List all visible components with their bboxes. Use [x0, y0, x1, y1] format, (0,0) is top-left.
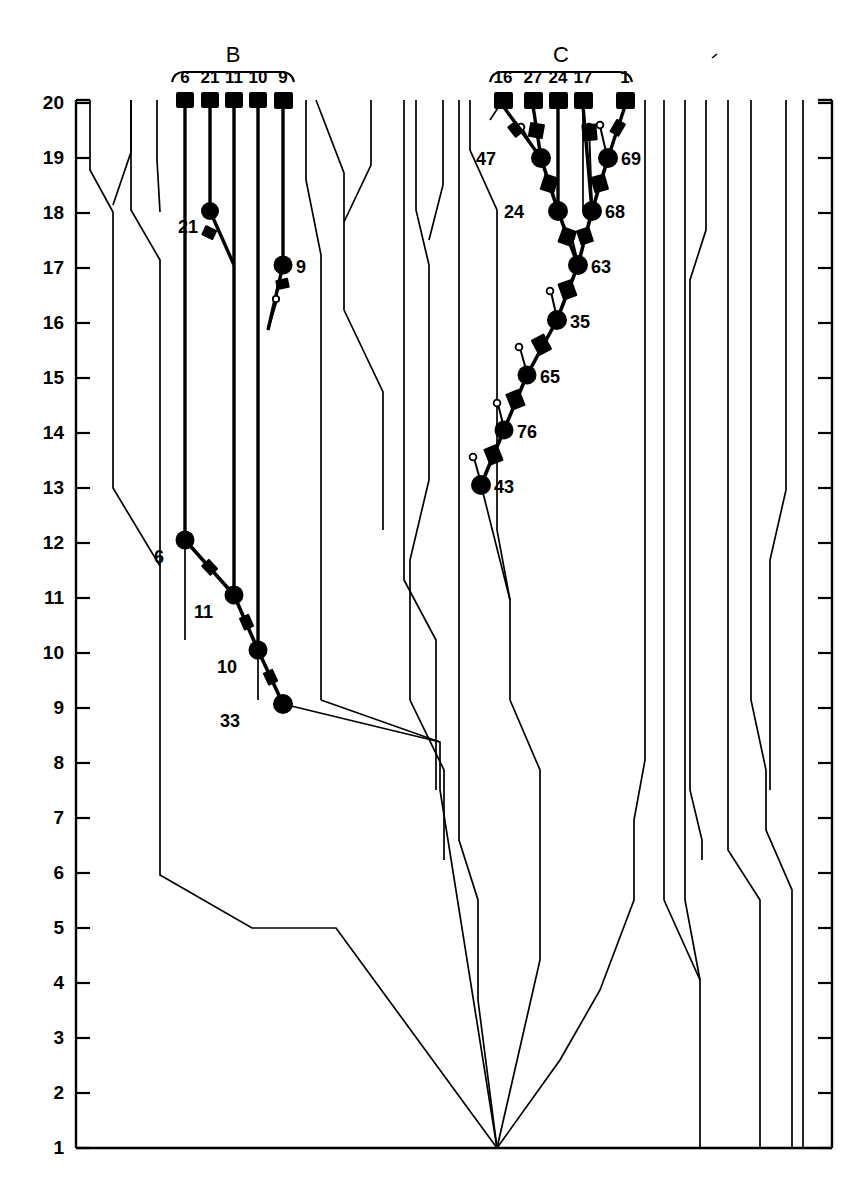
node-47 — [531, 148, 551, 168]
thin-lineage-24 — [728, 100, 760, 1148]
clade-C-node-label-47: 47 — [476, 150, 496, 168]
tip-square-6 — [176, 92, 194, 108]
thin-lineage-3 — [131, 100, 160, 566]
thin-lineage-23 — [690, 100, 706, 860]
axis-tick-label-5: 5 — [30, 918, 64, 937]
axis-tick-label-17: 17 — [30, 258, 64, 277]
stray-mark — [712, 54, 717, 58]
node-63 — [568, 255, 588, 275]
tip-square-10 — [249, 92, 267, 108]
node-24 — [548, 201, 568, 221]
clade-C-node-label-24: 24 — [504, 203, 524, 221]
node-35 — [547, 310, 567, 330]
clade-C-node-label-76: 76 — [517, 423, 537, 441]
tip-square-1 — [616, 92, 635, 109]
axis-tick-label-7: 7 — [30, 808, 64, 827]
axis-tick-label-12: 12 — [30, 533, 64, 552]
axis-tick-label-8: 8 — [30, 753, 64, 772]
group-label-B: B — [213, 44, 253, 66]
clade-B-node-label-10: 10 — [217, 658, 237, 676]
axis-tick-label-10: 10 — [30, 643, 64, 662]
thin-lineage-11 — [404, 310, 436, 790]
node-6 — [176, 531, 195, 550]
thin-lineage-15 — [459, 100, 497, 1148]
thin-lineage-14 — [410, 480, 444, 860]
node-21 — [201, 202, 219, 220]
thin-lineage-2 — [113, 100, 131, 205]
clade-C-node-label-35: 35 — [570, 313, 590, 331]
thin-lineage-1 — [90, 100, 497, 1148]
clade-B-node-label-33: 33 — [220, 712, 240, 730]
thin-lineage-6 — [321, 700, 497, 1148]
thin-lineage-19 — [497, 100, 645, 1148]
thin-lineage-12 — [416, 100, 429, 480]
background-lineages — [90, 100, 803, 1148]
group-label-C: C — [541, 44, 581, 66]
node-9 — [274, 256, 293, 275]
figure-canvas: 2019181716151413121110987654321 62111109… — [0, 0, 863, 1186]
tip-square-21 — [201, 92, 219, 108]
clade-B-open-node-9 — [273, 296, 279, 302]
clade-C-node-label-68: 68 — [605, 203, 625, 221]
thin-lineage-4 — [157, 100, 160, 212]
thin-lineage-13 — [429, 100, 443, 240]
axis-tick-label-13: 13 — [30, 478, 64, 497]
node-43 — [471, 475, 491, 495]
tip-square-27 — [524, 92, 543, 109]
clade-B-tip-squares — [176, 92, 293, 109]
clade-C-tip-label-17: 17 — [568, 69, 598, 86]
axis-tick-label-9: 9 — [30, 698, 64, 717]
tip-square-9 — [274, 92, 293, 109]
axis-ticks-right — [818, 103, 832, 1148]
tip-square-16 — [494, 92, 513, 109]
node-68 — [582, 201, 602, 221]
clade-B-node-label-21: 21 — [178, 218, 198, 236]
thin-lineage-22 — [685, 100, 700, 980]
axis-tick-label-15: 15 — [30, 368, 64, 387]
axis-tick-label-18: 18 — [30, 203, 64, 222]
thin-lineage-9 — [344, 310, 383, 530]
thin-lineage-5 — [306, 100, 321, 700]
lineage-tree-svg — [0, 0, 863, 1186]
clade-B-tip-label-9: 9 — [268, 69, 298, 86]
axis-tick-label-19: 19 — [30, 148, 64, 167]
clade-C-out-of-43 — [481, 485, 510, 600]
clade-C-node-label-69: 69 — [621, 150, 641, 168]
node-10 — [249, 641, 268, 660]
clade-C-tip-label-1: 1 — [610, 69, 640, 86]
clade-C-tip-squares — [494, 92, 635, 109]
axis-tick-label-11: 11 — [30, 588, 64, 607]
node-69 — [598, 148, 618, 168]
clade-C-node-label-63: 63 — [591, 258, 611, 276]
clade-B-node-label-11: 11 — [194, 603, 213, 621]
axis-ticks-left — [76, 103, 90, 1148]
tip-square-11 — [225, 92, 243, 108]
clade-B-node-label-6: 6 — [154, 548, 164, 566]
tip-square-17 — [574, 92, 593, 109]
axis-tick-label-6: 6 — [30, 863, 64, 882]
node-76 — [495, 421, 514, 440]
thin-lineage-17 — [470, 100, 510, 700]
axis-tick-label-20: 20 — [30, 93, 64, 112]
thin-lineage-27 — [770, 100, 786, 790]
axis-tick-label-14: 14 — [30, 423, 64, 442]
axis-frame — [76, 100, 832, 1148]
axis-tick-label-3: 3 — [30, 1028, 64, 1047]
thin-lineage-21 — [664, 900, 700, 1148]
tip-square-24 — [549, 92, 568, 109]
clade-B-out-of-33 — [283, 704, 440, 742]
axis-tick-label-4: 4 — [30, 973, 64, 992]
clade-B-node-label-9: 9 — [296, 258, 306, 276]
axis-tick-label-1: 1 — [30, 1138, 64, 1157]
clade-C-tip-label-16: 16 — [488, 69, 518, 86]
thin-lineage-8 — [344, 100, 371, 222]
node-65 — [518, 366, 537, 385]
clade-C-node-label-43: 43 — [494, 478, 514, 496]
clade-C-node-label-65: 65 — [540, 368, 560, 386]
clade-C-open-branches — [474, 126, 607, 483]
axis-tick-label-16: 16 — [30, 313, 64, 332]
node-11 — [225, 586, 244, 605]
axis-tick-label-2: 2 — [30, 1083, 64, 1102]
thin-lineage-18 — [497, 700, 540, 1148]
node-33 — [273, 694, 293, 714]
